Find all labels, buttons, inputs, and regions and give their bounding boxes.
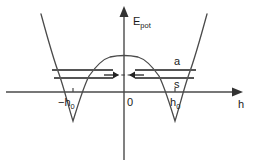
left-minimum-label: −h0 xyxy=(58,97,75,111)
x-axis-label: h xyxy=(238,99,244,110)
right-minimum-label: h0 xyxy=(170,97,180,111)
energy-level-a-label: a xyxy=(174,56,180,67)
potential-plot-svg xyxy=(0,0,263,166)
y-axis xyxy=(120,6,129,160)
y-axis-label: Epot xyxy=(133,16,151,30)
origin-label: 0 xyxy=(127,97,133,108)
potential-diagram-figure: Epot h 0 −h0 h0 a s xyxy=(0,0,263,166)
energy-level-s-label: s xyxy=(174,79,180,90)
